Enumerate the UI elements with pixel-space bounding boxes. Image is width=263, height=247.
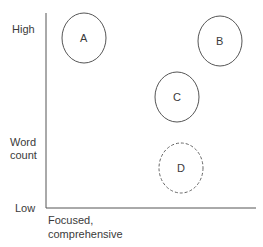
bubble-b-label: B — [216, 35, 223, 48]
bubble-c-label: C — [173, 91, 181, 104]
x-axis-title-line2: comprehensive — [48, 228, 123, 241]
y-axis-low-label: Low — [15, 202, 35, 215]
diagram-canvas — [0, 0, 263, 247]
y-axis-title-line1: Word — [10, 136, 36, 149]
bubble-d-label: D — [177, 162, 185, 175]
bubble-a-label: A — [80, 32, 87, 45]
y-axis-high-label: High — [12, 23, 35, 36]
y-axis-title-line2: count — [10, 149, 37, 162]
x-axis-title-line1: Focused, — [48, 214, 93, 227]
